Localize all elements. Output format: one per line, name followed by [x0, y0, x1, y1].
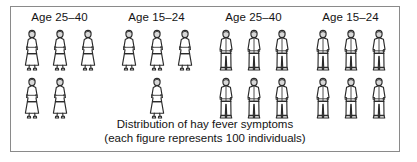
female-figure-icon	[143, 75, 171, 119]
chart-caption: Distribution of hay fever symptoms (each…	[11, 118, 399, 145]
group-label-2: Age 15–24	[108, 10, 205, 24]
male-figure-icon	[337, 75, 365, 119]
figure-group-4-row-2	[302, 73, 399, 119]
male-figure-icon	[212, 27, 240, 71]
male-figure-icon	[268, 75, 296, 119]
group-label-4: Age 15–24	[302, 10, 399, 24]
group-labels-row: Age 25–40 Age 15–24 Age 25–40 Age 15–24	[11, 10, 399, 24]
female-figure-icon	[171, 27, 199, 71]
male-figure-icon	[365, 27, 393, 71]
group-label-3: Age 25–40	[205, 10, 302, 24]
male-figure-icon	[212, 75, 240, 119]
male-figure-icon	[268, 27, 296, 71]
pictogram-area	[11, 25, 399, 123]
pictogram-row-1	[11, 25, 399, 71]
male-figure-icon	[240, 27, 268, 71]
female-figure-icon	[46, 75, 74, 119]
figure-group-4-row-1	[302, 25, 399, 71]
figure-group-3-row-1	[205, 25, 302, 71]
caption-line-2: (each figure represents 100 individuals)	[11, 132, 399, 146]
male-figure-icon	[365, 75, 393, 119]
pictogram-chart-frame: Age 25–40 Age 15–24 Age 25–40 Age 15–24 …	[10, 6, 400, 152]
figure-group-1-row-2	[11, 73, 108, 119]
female-figure-icon	[18, 27, 46, 71]
figure-group-2-row-2	[108, 73, 205, 119]
group-label-1: Age 25–40	[11, 10, 108, 24]
pictogram-row-2	[11, 73, 399, 119]
male-figure-icon	[309, 75, 337, 119]
female-figure-icon	[46, 27, 74, 71]
figure-group-1-row-1	[11, 25, 108, 71]
female-figure-icon	[74, 27, 102, 71]
male-figure-icon	[337, 27, 365, 71]
figure-slot-empty	[74, 75, 102, 119]
male-figure-icon	[309, 27, 337, 71]
figure-slot-empty	[115, 75, 143, 119]
figure-group-2-row-1	[108, 25, 205, 71]
male-figure-icon	[240, 75, 268, 119]
female-figure-icon	[18, 75, 46, 119]
female-figure-icon	[115, 27, 143, 71]
figure-group-3-row-2	[205, 73, 302, 119]
caption-line-1: Distribution of hay fever symptoms	[11, 118, 399, 132]
female-figure-icon	[143, 27, 171, 71]
figure-slot-empty	[171, 75, 199, 119]
